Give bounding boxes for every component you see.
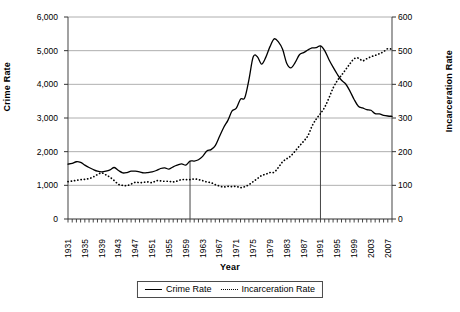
legend-swatch-solid bbox=[145, 289, 162, 290]
legend-item[interactable]: Incarceration Rate bbox=[220, 284, 315, 294]
legend-item[interactable]: Crime Rate bbox=[145, 284, 212, 294]
legend-label: Incarceration Rate bbox=[241, 284, 315, 294]
legend-label: Crime Rate bbox=[166, 284, 212, 294]
chart-figure: Crime Rate Incarceration Rate Year 01,00… bbox=[0, 0, 460, 312]
plot-area bbox=[0, 0, 460, 312]
legend-swatch-dotted bbox=[220, 289, 237, 290]
series-line-crime-rate bbox=[68, 39, 392, 173]
chart-legend: Crime RateIncarceration Rate bbox=[137, 281, 323, 298]
